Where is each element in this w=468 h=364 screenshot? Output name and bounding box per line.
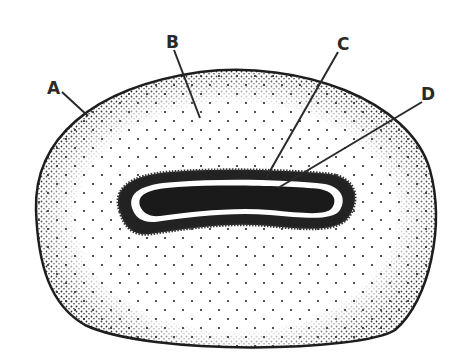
label-a: A <box>47 78 61 98</box>
leader-line-a <box>62 92 88 116</box>
nucleus <box>118 170 355 234</box>
label-c: C <box>337 34 349 54</box>
label-b: B <box>166 32 179 52</box>
cell-diagram: A B C D <box>0 0 468 364</box>
label-d: D <box>421 84 435 104</box>
